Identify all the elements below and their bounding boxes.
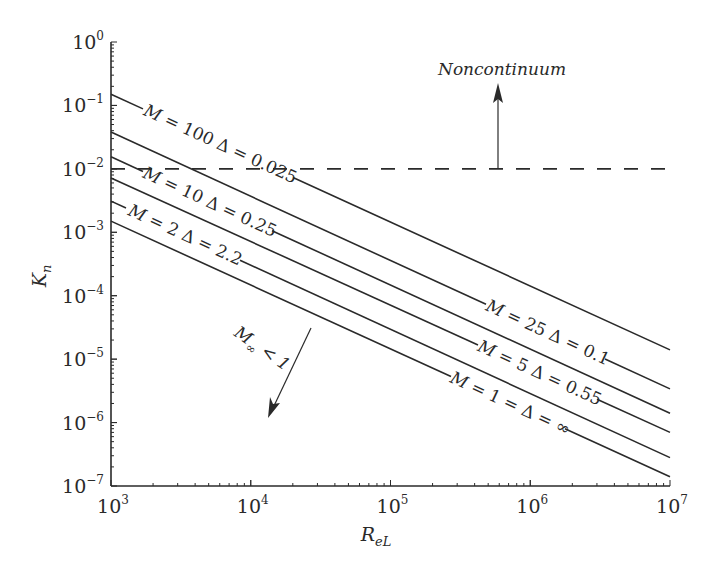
series-line-segment <box>111 201 126 208</box>
y-tick-label: 10−6 <box>62 410 104 434</box>
y-tick-label: 10−4 <box>62 283 104 307</box>
knudsen-reynolds-chart: 10010−110−210−310−410−510−610−7 10310410… <box>0 0 716 574</box>
subsonic-annotation: M∞ < 1 <box>228 321 311 418</box>
down-left-arrow-icon <box>268 397 280 418</box>
series-line-segment <box>293 177 670 349</box>
series-labels: M = 100 Δ = 0.025M = 25 Δ = 0.1M = 10 Δ … <box>124 100 613 440</box>
subsonic-label: M∞ < 1 <box>228 321 294 378</box>
noncontinuum-annotation: Noncontinuum <box>437 59 566 168</box>
y-tick-label: 10−7 <box>62 473 104 497</box>
series-lines <box>111 94 670 476</box>
series-line-segment <box>111 94 143 109</box>
y-tick-label: 10−1 <box>62 92 104 116</box>
x-tick-label: 107 <box>656 493 688 517</box>
x-axis-title: ReL <box>360 523 392 549</box>
noncontinuum-label: Noncontinuum <box>437 59 566 79</box>
series-line-segment <box>565 429 670 477</box>
x-tick-label: 104 <box>237 493 269 517</box>
y-axis-title: Kn <box>28 265 54 289</box>
y-tick-label: 10−2 <box>62 156 104 180</box>
y-tick-label: 10−3 <box>62 219 104 243</box>
series-line-segment <box>605 359 670 389</box>
y-tick-label: 100 <box>72 29 104 53</box>
x-tick-label: 106 <box>516 493 548 517</box>
x-tick-label: 105 <box>377 493 409 517</box>
y-tick-label: 10−5 <box>62 346 104 370</box>
x-tick-label: 103 <box>97 493 129 517</box>
series-line-segment <box>597 399 670 432</box>
x-tick-labels: 103104105106107 <box>97 493 688 517</box>
series-line-segment <box>111 178 478 345</box>
y-tick-labels: 10010−110−210−310−410−510−610−7 <box>62 29 104 497</box>
